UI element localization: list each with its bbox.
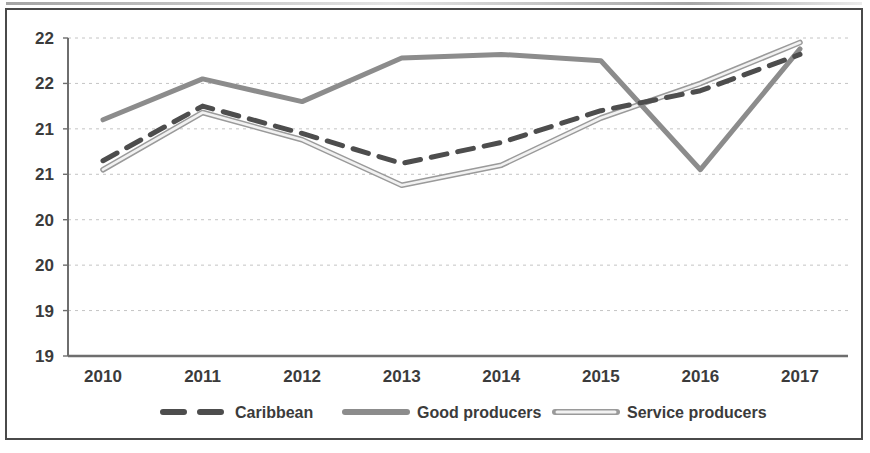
x-axis-tick-label: 2011 xyxy=(184,367,221,386)
y-axis-tick-label: 21 xyxy=(35,120,54,139)
x-axis-tick-labels: 20102011201220132014201520162017 xyxy=(84,367,819,386)
y-axis-tick-label: 22 xyxy=(35,29,54,48)
legend-label-good-producers: Good producers xyxy=(417,404,542,421)
data-series-group xyxy=(103,43,800,186)
y-axis-tick-labels: 2222212120201919 xyxy=(35,29,54,366)
chart-legend: CaribbeanGood producersService producers xyxy=(163,404,767,421)
legend-label-service-producers: Service producers xyxy=(627,404,767,421)
y-axis-tick-label: 19 xyxy=(35,302,54,321)
x-axis-tick-label: 2013 xyxy=(383,367,421,386)
plot-area-wrapper: 2222212120201919 20102011201220132014201… xyxy=(0,0,870,453)
y-axis-tick-label: 22 xyxy=(35,74,54,93)
x-axis-tick-label: 2012 xyxy=(283,367,321,386)
legend-item-good-producers[interactable]: Good producers xyxy=(345,404,542,421)
y-axis-tick-label: 21 xyxy=(35,165,54,184)
y-axis-tick-label: 20 xyxy=(35,256,54,275)
line-chart-svg: 2222212120201919 20102011201220132014201… xyxy=(0,0,870,453)
y-axis-tick-label: 19 xyxy=(35,347,54,366)
x-axis-tick-label: 2016 xyxy=(682,367,720,386)
legend-item-caribbean[interactable]: Caribbean xyxy=(163,404,313,421)
legend-item-service-producers[interactable]: Service producers xyxy=(555,404,767,421)
x-axis-tick-label: 2014 xyxy=(482,367,520,386)
x-axis-tick-label: 2017 xyxy=(781,367,819,386)
chart-figure: 2222212120201919 20102011201220132014201… xyxy=(0,0,870,453)
legend-label-caribbean: Caribbean xyxy=(235,404,313,421)
series-line-caribbean xyxy=(103,54,800,163)
x-axis-tick-label: 2010 xyxy=(84,367,122,386)
y-axis-tick-label: 20 xyxy=(35,211,54,230)
x-axis-tick-label: 2015 xyxy=(582,367,620,386)
